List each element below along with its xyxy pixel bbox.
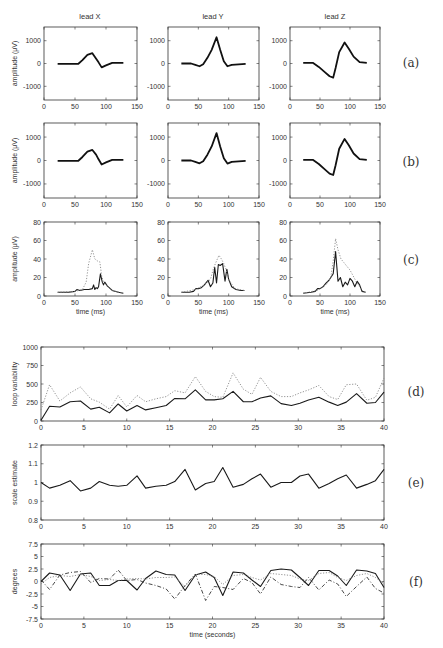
series-estimate bbox=[303, 139, 367, 175]
plot-area bbox=[41, 544, 384, 619]
y-tick-label: 1000 bbox=[149, 134, 165, 141]
plot-area bbox=[41, 445, 384, 520]
column-title-lead-y: lead Y bbox=[202, 12, 223, 21]
x-tick-label: 150 bbox=[131, 103, 143, 110]
y-tick-label: 1.2 bbox=[28, 442, 38, 449]
x-tick-label: 100 bbox=[223, 299, 235, 306]
x-axis-label: time (seconds) bbox=[190, 631, 236, 639]
x-tick-label: 150 bbox=[131, 299, 143, 306]
y-axis-label: amplitude (μV) bbox=[11, 138, 19, 184]
panel-e: 05101520253035400.80.911.11.2scale estim… bbox=[11, 442, 388, 531]
series-solid bbox=[41, 390, 384, 420]
x-tick-label: 50 bbox=[194, 299, 202, 306]
y-tick-label: 0.8 bbox=[28, 517, 38, 524]
panel-a-subplot-1: 050100150-100001000amplitude (μV) bbox=[11, 27, 143, 110]
y-tick-label: 40 bbox=[33, 256, 41, 263]
y-tick-label: 1000 bbox=[22, 344, 38, 351]
panel-c: 050100150020406080amplitude (μV)time (ms… bbox=[11, 219, 386, 317]
x-tick-label: 30 bbox=[294, 424, 302, 431]
y-tick-label: 1000 bbox=[271, 37, 287, 44]
y-tick-label: -1000 bbox=[147, 180, 165, 187]
y-tick-label: 0 bbox=[34, 578, 38, 585]
y-tick-label: 80 bbox=[33, 219, 41, 226]
y-tick-label: 0.9 bbox=[28, 498, 38, 505]
y-tick-label: 20 bbox=[33, 274, 41, 281]
y-tick-label: 60 bbox=[279, 237, 287, 244]
panel-a: 050100150-100001000amplitude (μV)0501001… bbox=[11, 27, 386, 110]
series-dotted bbox=[58, 250, 124, 293]
y-axis-label: scale estimate bbox=[11, 460, 18, 505]
y-tick-label: 2.5 bbox=[28, 566, 38, 573]
y-tick-label: 1000 bbox=[25, 134, 41, 141]
panel-a-subplot-2: 050100150-100001000 bbox=[147, 27, 265, 110]
x-tick-label: 100 bbox=[100, 299, 112, 306]
x-tick-label: 0 bbox=[42, 103, 46, 110]
x-tick-label: 50 bbox=[316, 299, 324, 306]
y-tick-label: 0 bbox=[37, 293, 41, 300]
panel-tag-d: (d) bbox=[407, 385, 424, 399]
x-tick-label: 35 bbox=[337, 523, 345, 530]
panel-tag-b: (b) bbox=[402, 155, 419, 169]
y-tick-label: 7.5 bbox=[28, 541, 38, 548]
panel-d: 051015202530354002505007501000loop varia… bbox=[11, 344, 388, 432]
y-tick-label: 750 bbox=[26, 362, 38, 369]
x-tick-label: 50 bbox=[316, 201, 324, 208]
panel-tag-e: (e) bbox=[408, 476, 424, 490]
x-tick-label: 20 bbox=[209, 622, 217, 629]
x-tick-label: 100 bbox=[223, 201, 235, 208]
series-overlaid-beats bbox=[303, 43, 367, 78]
panel-b: 050100150-100001000amplitude (μV)0501001… bbox=[11, 123, 386, 208]
x-tick-label: 40 bbox=[380, 523, 388, 530]
y-tick-label: -7.5 bbox=[26, 616, 38, 623]
panel-c-subplot-3: 050100150020406080time (ms) bbox=[279, 219, 386, 317]
x-tick-label: 100 bbox=[344, 103, 356, 110]
series-dotted bbox=[41, 373, 384, 410]
x-tick-label: 100 bbox=[100, 201, 112, 208]
x-axis-label: time (ms) bbox=[320, 308, 349, 316]
series-overlaid-beats bbox=[58, 53, 124, 67]
panel-b-subplot-3: 050100150-100001000 bbox=[269, 123, 386, 208]
y-tick-label: 0 bbox=[37, 157, 41, 164]
x-tick-label: 35 bbox=[337, 622, 345, 629]
y-tick-label: 1000 bbox=[149, 37, 165, 44]
x-tick-label: 10 bbox=[123, 424, 131, 431]
y-tick-label: -1000 bbox=[269, 83, 287, 90]
series-solid bbox=[181, 264, 244, 293]
series-dotted bbox=[181, 255, 244, 292]
x-tick-label: 35 bbox=[337, 424, 345, 431]
series-solid bbox=[41, 569, 384, 596]
x-tick-label: 50 bbox=[316, 103, 324, 110]
x-tick-label: 150 bbox=[253, 201, 265, 208]
x-tick-label: 0 bbox=[166, 103, 170, 110]
y-tick-label: 1000 bbox=[25, 37, 41, 44]
x-tick-label: 5 bbox=[82, 424, 86, 431]
x-tick-label: 100 bbox=[223, 103, 235, 110]
x-tick-label: 30 bbox=[294, 622, 302, 629]
x-tick-label: 0 bbox=[42, 299, 46, 306]
x-tick-label: 50 bbox=[71, 103, 79, 110]
x-tick-label: 150 bbox=[374, 201, 386, 208]
panel-b-subplot-2: 050100150-100001000 bbox=[147, 123, 265, 208]
y-axis-label: amplitude (μV) bbox=[11, 236, 19, 282]
y-tick-label: 5 bbox=[34, 553, 38, 560]
figure: lead X lead Y lead Z (a) (b) (c) (d) (e)… bbox=[0, 0, 443, 648]
panel-b-subplot-1: 050100150-100001000amplitude (μV) bbox=[11, 123, 143, 208]
x-tick-label: 25 bbox=[251, 424, 259, 431]
panel-c-subplot-1: 050100150020406080amplitude (μV)time (ms… bbox=[11, 219, 143, 317]
y-tick-label: 40 bbox=[157, 256, 165, 263]
y-axis-label: degrees bbox=[11, 568, 19, 594]
x-tick-label: 50 bbox=[194, 201, 202, 208]
panel-tag-c: (c) bbox=[403, 253, 419, 267]
y-tick-label: -1000 bbox=[269, 180, 287, 187]
x-tick-label: 0 bbox=[288, 201, 292, 208]
x-tick-label: 150 bbox=[253, 299, 265, 306]
y-axis-label: amplitude (μV) bbox=[11, 41, 19, 87]
x-tick-label: 0 bbox=[166, 201, 170, 208]
x-tick-label: 100 bbox=[344, 299, 356, 306]
y-tick-label: 0 bbox=[283, 157, 287, 164]
x-tick-label: 25 bbox=[251, 523, 259, 530]
y-tick-label: 0 bbox=[34, 418, 38, 425]
series-estimate bbox=[58, 150, 124, 165]
y-tick-label: 80 bbox=[157, 219, 165, 226]
x-tick-label: 150 bbox=[374, 299, 386, 306]
